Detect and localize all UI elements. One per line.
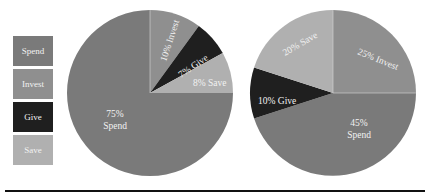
- pie-chart-2: 25% Invest 45% Spend 10% Give 20% Save: [250, 10, 416, 176]
- pie1-label-save: 8% Save: [193, 78, 227, 88]
- pie1-label-spend-pct: 75%: [106, 109, 124, 119]
- bottom-rule: [5, 190, 425, 192]
- pie-charts: 10% Invest 7% Give 8% Save 75% Spend 25%…: [0, 0, 432, 196]
- pie2-label-spend-word: Spend: [347, 130, 371, 140]
- pie-chart-1: 10% Invest 7% Give 8% Save 75% Spend: [67, 10, 233, 176]
- pie1-label-spend-word: Spend: [103, 121, 127, 131]
- pie2-label-give: 10% Give: [258, 96, 296, 106]
- pie2-label-spend-pct: 45%: [350, 118, 368, 128]
